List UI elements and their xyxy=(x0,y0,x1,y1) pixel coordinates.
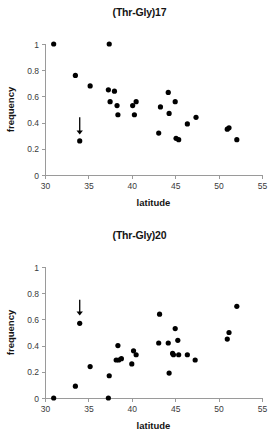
data-point xyxy=(225,336,230,341)
data-point xyxy=(158,104,163,109)
plot-area: 00.20.40.60.81303540455055latitudefreque… xyxy=(0,223,279,445)
chart-panel-thr-gly-17: (Thr-Gly)17 00.20.40.60.81303540455055la… xyxy=(0,0,279,222)
data-point xyxy=(193,115,198,120)
data-point xyxy=(234,137,239,142)
data-point xyxy=(193,357,198,362)
data-point xyxy=(77,321,82,326)
annotation-arrow xyxy=(77,300,83,316)
y-axis-tick-label: 0 xyxy=(34,171,39,181)
data-point xyxy=(166,340,171,345)
x-axis-tick-label: 30 xyxy=(41,181,51,191)
data-point xyxy=(51,41,56,46)
data-point xyxy=(108,99,113,104)
x-axis-tick-label: 35 xyxy=(84,404,94,414)
y-axis-tick-label: 0.4 xyxy=(27,118,39,128)
x-axis-tick-label: 40 xyxy=(128,404,138,414)
data-point xyxy=(156,340,161,345)
data-point xyxy=(185,352,190,357)
arrow-head-icon xyxy=(77,130,83,134)
data-point xyxy=(171,352,176,357)
data-point xyxy=(185,121,190,126)
y-axis-tick-label: 0.2 xyxy=(27,367,39,377)
data-point xyxy=(173,99,178,104)
data-point xyxy=(226,330,231,335)
arrow-head-icon xyxy=(77,311,83,315)
data-point xyxy=(176,352,181,357)
data-point xyxy=(115,112,120,117)
x-axis-tick-label: 50 xyxy=(214,404,224,414)
x-axis-title: latitude xyxy=(137,197,171,208)
y-axis-tick-label: 1 xyxy=(34,40,39,50)
data-point xyxy=(167,371,172,376)
x-axis-tick-label: 40 xyxy=(128,181,138,191)
y-axis-tick-label: 0 xyxy=(34,394,39,404)
chart-panel-thr-gly-20: (Thr-Gly)20 00.20.40.60.81303540455055la… xyxy=(0,223,279,445)
data-point xyxy=(112,89,117,94)
y-axis-title: frequency xyxy=(5,86,16,132)
data-point xyxy=(115,343,120,348)
data-point xyxy=(106,395,111,400)
data-point xyxy=(88,364,93,369)
y-axis-tick-label: 0.8 xyxy=(27,289,39,299)
scatter-figure: (Thr-Gly)17 00.20.40.60.81303540455055la… xyxy=(0,0,279,445)
y-axis-tick-label: 1 xyxy=(34,263,39,273)
data-point xyxy=(234,304,239,309)
data-point xyxy=(114,103,119,108)
y-axis-tick-label: 0.4 xyxy=(27,341,39,351)
data-point xyxy=(134,352,139,357)
x-axis-tick-label: 45 xyxy=(171,404,181,414)
x-axis-tick-label: 35 xyxy=(84,181,94,191)
plot-area: 00.20.40.60.81303540455055latitudefreque… xyxy=(0,0,279,222)
data-point xyxy=(166,90,171,95)
y-axis-tick-label: 0.8 xyxy=(27,66,39,76)
x-axis-tick-label: 55 xyxy=(258,181,268,191)
data-point xyxy=(157,312,162,317)
data-point xyxy=(119,356,124,361)
data-point xyxy=(88,83,93,88)
x-axis-tick-label: 55 xyxy=(258,404,268,414)
x-axis-tick-label: 50 xyxy=(214,181,224,191)
data-point xyxy=(73,384,78,389)
data-point xyxy=(156,130,161,135)
data-point xyxy=(129,361,134,366)
data-point xyxy=(226,125,231,130)
data-point xyxy=(51,395,56,400)
data-point xyxy=(77,138,82,143)
data-point xyxy=(176,137,181,142)
data-point xyxy=(130,103,135,108)
x-axis-tick-label: 45 xyxy=(171,181,181,191)
y-axis-tick-label: 0.6 xyxy=(27,92,39,102)
data-point xyxy=(167,111,172,116)
data-point xyxy=(107,373,112,378)
data-point xyxy=(73,73,78,78)
data-point xyxy=(132,112,137,117)
data-point xyxy=(175,338,180,343)
y-axis-tick-label: 0.6 xyxy=(27,315,39,325)
x-axis-title: latitude xyxy=(137,420,171,431)
data-point xyxy=(107,41,112,46)
data-point xyxy=(134,99,139,104)
data-point xyxy=(173,326,178,331)
data-point xyxy=(106,87,111,92)
annotation-arrow xyxy=(77,117,83,134)
y-axis-tick-label: 0.2 xyxy=(27,144,39,154)
x-axis-tick-label: 30 xyxy=(41,404,51,414)
y-axis-title: frequency xyxy=(5,309,16,355)
